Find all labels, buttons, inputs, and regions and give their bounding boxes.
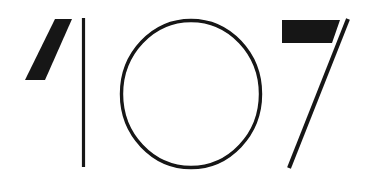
numeral-graphic-107 [0, 0, 368, 172]
digit-seven-top-bar-stroke [282, 20, 340, 43]
artwork-canvas: 107 [0, 0, 368, 172]
